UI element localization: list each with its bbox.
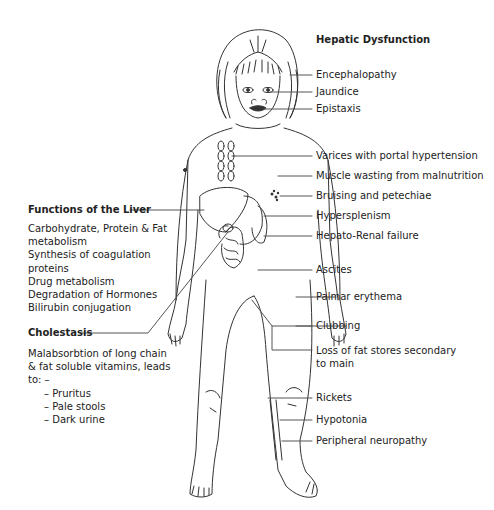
- cholestasis-title: Cholestasis: [28, 327, 92, 338]
- label-varices: Varices with portal hypertension: [316, 149, 478, 162]
- label-muscle-wasting: Muscle wasting from malnutrition: [316, 169, 484, 182]
- label-palmar-erythema: Palmar erythema: [316, 290, 402, 303]
- cholestasis-line: Malabsorbtion of long chain: [28, 347, 170, 360]
- petechiae: [271, 190, 280, 201]
- label-hypersplenism: Hypersplenism: [316, 209, 391, 222]
- function-line: Carbohydrate, Protein & Fat: [28, 222, 167, 235]
- function-line: Synthesis of coagulation: [28, 248, 167, 261]
- hepatic-dysfunction-title: Hepatic Dysfunction: [316, 34, 430, 45]
- label-bruising: Bruising and petechiae: [316, 189, 431, 202]
- label-jaundice: Jaundice: [316, 85, 359, 98]
- label-rickets: Rickets: [316, 391, 352, 404]
- label-loss-of-fat-stores-cont: to main: [316, 357, 354, 370]
- organs: [200, 187, 267, 268]
- cholestasis-bullet-pruritus: – Pruritus: [28, 387, 170, 400]
- cholestasis-description: Malabsorbtion of long chain & fat solubl…: [28, 347, 170, 426]
- functions-of-liver-title: Functions of the Liver: [28, 204, 151, 215]
- cholestasis-bullet-dark-urine: – Dark urine: [28, 413, 170, 426]
- head: [217, 30, 298, 118]
- cholestasis-line: to: –: [28, 373, 170, 386]
- varices: [218, 141, 234, 181]
- function-line: proteins: [28, 262, 167, 275]
- cholestasis-line: & fat soluble vitamins, leads: [28, 360, 170, 373]
- function-line: Degradation of Hormones: [28, 288, 167, 301]
- functions-of-liver-list: Carbohydrate, Protein & Fat metabolism S…: [28, 222, 167, 314]
- function-line: metabolism: [28, 235, 167, 248]
- label-peripheral-neuropathy: Peripheral neuropathy: [316, 434, 427, 447]
- label-hepato-renal-failure: Hepato-Renal failure: [316, 229, 419, 242]
- label-loss-of-fat-stores: Loss of fat stores secondary: [316, 344, 456, 357]
- label-hypotonia: Hypotonia: [316, 413, 367, 426]
- function-line: Bilirubin conjugation: [28, 301, 167, 314]
- label-clubbing: Clubbing: [316, 319, 360, 332]
- cholestasis-bullet-pale-stools: – Pale stools: [28, 400, 170, 413]
- label-encephalopathy: Encephalopathy: [316, 68, 397, 81]
- label-epistaxis: Epistaxis: [316, 102, 361, 115]
- label-ascites: Ascites: [316, 263, 352, 276]
- function-line: Drug metabolism: [28, 275, 167, 288]
